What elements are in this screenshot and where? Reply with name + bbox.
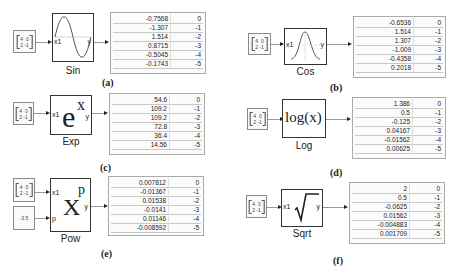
panel-log: 4 0 2 -1 log(x) Log 1.3860 0.5-1 -0.125-…: [230, 90, 459, 185]
arrow-icon: [104, 111, 108, 115]
output-port-label: y: [321, 41, 325, 48]
input-port-label: x1: [283, 203, 290, 210]
panel-sin: 4 0 2 -1 x1 y Sin -0.75680 -1.307-1 1.51…: [0, 0, 230, 90]
matrix-value: 4 0 2 -1: [249, 112, 266, 126]
matrix-value: 4 0 2 -1: [15, 107, 32, 121]
exp-block[interactable]: e x x1 y Exp: [50, 95, 92, 135]
block-label: Cos: [285, 66, 326, 77]
log-icon: log(x): [285, 109, 322, 126]
arrow-icon: [105, 40, 109, 44]
sqrt-block[interactable]: x1 y Sqrt: [281, 189, 323, 227]
input-port-label: x1: [286, 41, 293, 48]
block-label: Log: [283, 140, 325, 151]
display-row: 0.2018-5: [356, 63, 443, 73]
matrix-value: 4 0 2 -1: [16, 35, 33, 49]
display-block[interactable]: -0.75680 -1.307-1 1.514-2 0.8715-3 -0.50…: [110, 12, 206, 74]
log-block[interactable]: log(x) Log: [282, 99, 326, 138]
pow-superscript: p: [78, 182, 85, 198]
caption: (a): [102, 77, 114, 88]
cos-block[interactable]: x1 y Cos: [284, 28, 327, 65]
output-port-label: y: [88, 38, 92, 45]
display-row: -0.008592-5: [111, 223, 201, 233]
block-label: Sin: [53, 65, 93, 76]
panel-pow: 4 0 2 -1 -3.5 X p x1 p y Pow 0.0078120 -…: [0, 175, 230, 272]
matrix-value: 4 0 2 -1: [248, 200, 265, 214]
output-port-label: y: [85, 203, 89, 210]
scalar-value: -3.5: [20, 215, 29, 221]
output-port-label: y: [317, 203, 321, 210]
arrow-icon: [347, 117, 351, 121]
panel-cos: 4 0 2 -1 x1 y Cos -0.65360 1.514-1 1.307…: [230, 0, 459, 95]
caption: (f): [333, 255, 343, 266]
arrow-icon: [348, 42, 352, 46]
scalar-constant-block[interactable]: -3.5: [13, 206, 35, 230]
display-block[interactable]: -0.65360 1.514-1 1.307-2 -1.009-3 -0.435…: [353, 16, 446, 78]
matrix-constant-block[interactable]: 4 0 2 -1: [13, 102, 34, 125]
caption: (e): [101, 248, 112, 259]
panel-sqrt: 4 0 2 -1 x1 y Sqrt 20 0.5-1 -0.0625-2 0.…: [230, 175, 459, 272]
matrix-value: 4 0 2 -1: [251, 37, 268, 51]
matrix-constant-block[interactable]: 4 0 2 -1: [13, 178, 35, 202]
exp-superscript: x: [77, 96, 85, 114]
signal-line: [327, 44, 349, 45]
output-port-label: y: [86, 113, 90, 120]
display-row: 14.56-5: [112, 140, 202, 150]
exponent-port-label: p: [52, 215, 56, 222]
display-block[interactable]: 1.3860 0.5-1 -0.125-2 0.04167-3 -0.01562…: [352, 97, 446, 159]
signal-line: [91, 206, 105, 207]
matrix-constant-block[interactable]: 4 0 2 -1: [13, 30, 36, 53]
display-block[interactable]: 54.60 109.2-1 109.2-2 72.8-3 36.4-4 14.5…: [109, 93, 205, 155]
arrow-icon: [344, 205, 348, 209]
caption: (c): [100, 162, 111, 173]
pow-block[interactable]: X p x1 p y Pow: [50, 178, 91, 232]
block-label: Pow: [51, 233, 90, 244]
matrix-constant-block[interactable]: 4 0 2 -1: [247, 108, 268, 130]
display-block[interactable]: 0.0078120 -0.01367-1 0.01538-2 -0.0141-3…: [108, 176, 204, 236]
sin-block[interactable]: x1 y Sin: [52, 13, 94, 62]
matrix-constant-block[interactable]: 4 0 2 -1: [248, 33, 271, 55]
display-block[interactable]: 20 0.5-1 -0.0625-2 0.01562-3 -0.004883-4…: [349, 182, 445, 244]
input-port-label: x1: [52, 189, 59, 196]
block-label: Exp: [51, 136, 91, 147]
matrix-constant-block[interactable]: 4 0 2 -1: [246, 195, 267, 218]
input-port-label: x1: [52, 111, 59, 118]
panel-exp: 4 0 2 -1 e x x1 y Exp 54.60 109.2-1 109.…: [0, 90, 230, 180]
input-port-label: x1: [54, 38, 61, 45]
signal-line: [323, 207, 345, 208]
block-label: Sqrt: [282, 228, 322, 239]
pow-icon: X: [63, 194, 80, 221]
display-row: -0.1743-5: [113, 59, 203, 69]
display-row: 0.001709-5: [352, 229, 442, 239]
exp-icon: e: [62, 102, 75, 132]
signal-line: [326, 119, 348, 120]
matrix-value: 4 0 2 -1: [16, 183, 33, 197]
display-row: 0.00625-5: [355, 144, 443, 154]
